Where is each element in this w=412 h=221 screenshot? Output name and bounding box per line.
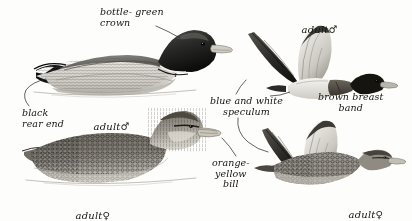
- annotation-brown-breast-band: brown breast band: [318, 92, 383, 113]
- caption-swimming-adult-female: adult♀: [62, 199, 110, 221]
- female-symbol-icon: ♀: [103, 210, 111, 221]
- male-symbol-icon: ♂: [121, 121, 130, 132]
- caption-swimming-female-label: adult: [76, 210, 103, 221]
- annotation-bottle-green-crown: bottle- green crown: [100, 7, 164, 28]
- female-symbol-icon: ♀: [376, 209, 384, 220]
- annotation-black-rear-end: black rear end: [22, 108, 64, 129]
- leader-blue-and-white-speculum: [238, 118, 268, 152]
- caption-flying-adult-male: adult♂: [288, 13, 338, 46]
- caption-swimming-male-label: adult: [94, 121, 121, 132]
- caption-swimming-adult-male: adult♂: [80, 110, 130, 143]
- caption-flying-male-label: adult: [302, 24, 329, 35]
- male-symbol-icon: ♂: [329, 24, 338, 35]
- caption-flying-adult-female: adult♀: [335, 198, 383, 221]
- annotation-orange-yellow-bill: orange- yellow bill: [212, 158, 250, 190]
- leader-orange-yellow-bill: [222, 138, 236, 156]
- annotation-blue-and-white-speculum: blue and white speculum: [210, 96, 283, 117]
- leader-speculum-upper: [236, 80, 246, 94]
- illustration-plate: bottle- green crown black rear end blue …: [0, 0, 412, 221]
- caption-flying-female-label: adult: [349, 209, 376, 220]
- leader-black-rear-end: [25, 79, 46, 106]
- figure-flying-adult-female: [254, 121, 406, 194]
- figure-swimming-adult-male: [30, 30, 233, 100]
